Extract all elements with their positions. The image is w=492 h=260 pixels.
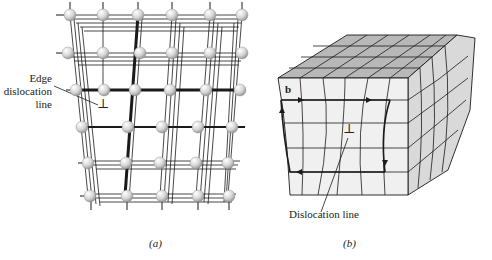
caption-b: (b) [343, 237, 356, 249]
dislocation-symbol-b: ⊥ [343, 122, 355, 135]
block-front-face [278, 78, 408, 195]
edge-dislocation-figure: Edge dislocation line ⊥ (a) [0, 0, 492, 260]
dislocation-line-label: Dislocation line [289, 208, 359, 221]
block-diagram [0, 0, 492, 260]
burgers-vector-label: b [285, 83, 291, 96]
